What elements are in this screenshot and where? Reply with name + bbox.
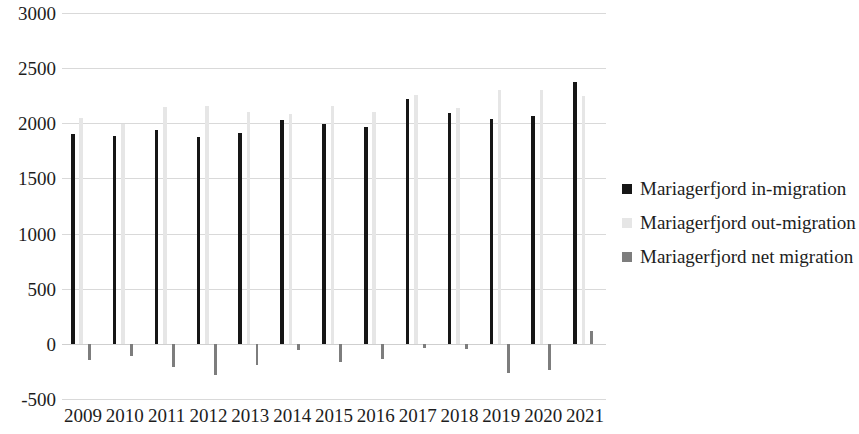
x-axis-tick: 2009 [62, 404, 104, 430]
bar-group [397, 13, 439, 399]
bar-group [564, 13, 606, 399]
bar-groups [62, 13, 606, 399]
bar-net-migration [590, 331, 593, 344]
bar-in-migration [197, 137, 201, 344]
bar-group [188, 13, 230, 399]
y-axis-tick: -500 [0, 390, 56, 409]
bar-in-migration [364, 127, 368, 344]
y-axis-tick: 1000 [0, 224, 56, 243]
x-axis-tick: 2016 [355, 404, 397, 430]
bar-in-migration [531, 116, 535, 344]
bar-in-migration [71, 134, 75, 344]
bar-in-migration [113, 136, 117, 344]
y-axis-tick: 1500 [0, 169, 56, 188]
bar-out-migration [372, 112, 376, 344]
y-axis-labels: 300025002000150010005000-500 [0, 0, 58, 434]
bar-net-migration [507, 344, 510, 373]
bar-net-migration [172, 344, 175, 367]
bar-in-migration [238, 133, 242, 344]
bar-out-migration [163, 107, 167, 344]
x-axis-tick: 2018 [439, 404, 481, 430]
x-axis-tick: 2020 [522, 404, 564, 430]
y-axis-tick: 2000 [0, 114, 56, 133]
bar-out-migration [247, 112, 251, 344]
bar-out-migration [498, 90, 502, 344]
legend-label: Mariagerfjord in-migration [640, 178, 846, 200]
bar-group [146, 13, 188, 399]
x-axis-tick: 2019 [480, 404, 522, 430]
bar-out-migration [456, 108, 460, 344]
legend-item[interactable]: Mariagerfjord net migration [622, 240, 858, 274]
plot-area [62, 13, 606, 399]
bar-out-migration [121, 124, 125, 344]
bar-out-migration [79, 118, 83, 344]
bar-group [104, 13, 146, 399]
x-axis-tick: 2010 [104, 404, 146, 430]
bar-net-migration [381, 344, 384, 359]
chart-legend: Mariagerfjord in-migrationMariagerfjord … [622, 172, 858, 274]
legend-label: Mariagerfjord net migration [640, 246, 853, 268]
legend-swatch-icon [622, 218, 632, 228]
bar-net-migration [423, 344, 426, 348]
legend-label: Mariagerfjord out-migration [640, 212, 856, 234]
bar-group [355, 13, 397, 399]
bar-group [480, 13, 522, 399]
x-axis-tick: 2017 [397, 404, 439, 430]
bar-net-migration [465, 344, 468, 349]
y-axis-tick: 500 [0, 279, 56, 298]
bar-in-migration [573, 82, 577, 343]
bar-group [271, 13, 313, 399]
bar-out-migration [331, 106, 335, 344]
bar-net-migration [256, 344, 259, 365]
bar-out-migration [289, 114, 293, 344]
bar-net-migration [214, 344, 217, 375]
bar-net-migration [297, 344, 300, 350]
bar-out-migration [205, 106, 209, 344]
x-axis-labels: 2009201020112012201320142015201620172018… [62, 404, 606, 430]
gridline [62, 399, 606, 400]
bar-group [313, 13, 355, 399]
bar-net-migration [130, 344, 133, 356]
bar-in-migration [490, 119, 494, 344]
x-axis-tick: 2015 [313, 404, 355, 430]
bar-group [229, 13, 271, 399]
bar-in-migration [322, 124, 326, 343]
y-axis-tick: 3000 [0, 4, 56, 23]
bar-net-migration [339, 344, 342, 362]
x-axis-tick: 2012 [188, 404, 230, 430]
legend-swatch-icon [622, 252, 632, 262]
bar-in-migration [448, 113, 452, 344]
y-axis-tick: 0 [0, 334, 56, 353]
migration-bar-chart: 300025002000150010005000-500 20092010201… [0, 0, 859, 434]
x-axis-tick: 2011 [146, 404, 188, 430]
y-axis-tick: 2500 [0, 59, 56, 78]
x-axis-tick: 2021 [564, 404, 606, 430]
bar-net-migration [88, 344, 91, 361]
legend-swatch-icon [622, 184, 632, 194]
bar-net-migration [548, 344, 551, 370]
bar-in-migration [280, 120, 284, 344]
bar-group [439, 13, 481, 399]
bar-out-migration [540, 90, 544, 344]
x-axis-tick: 2014 [271, 404, 313, 430]
bar-group [62, 13, 104, 399]
x-axis-tick: 2013 [229, 404, 271, 430]
legend-item[interactable]: Mariagerfjord in-migration [622, 172, 858, 206]
bar-out-migration [414, 95, 418, 344]
bar-group [522, 13, 564, 399]
legend-item[interactable]: Mariagerfjord out-migration [622, 206, 858, 240]
bar-in-migration [155, 130, 159, 344]
bar-out-migration [582, 96, 586, 344]
bar-in-migration [406, 99, 410, 344]
